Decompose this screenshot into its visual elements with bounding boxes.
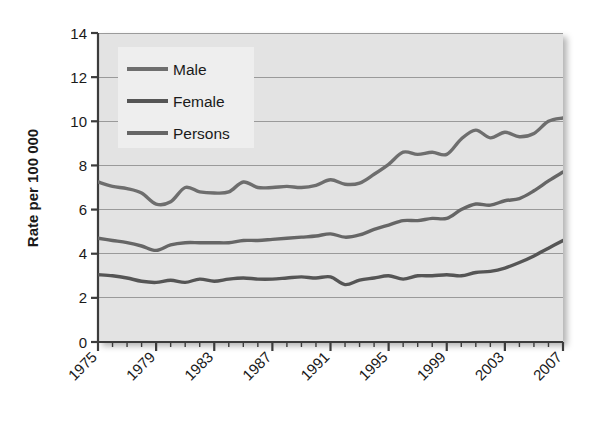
legend-label-female: Female	[173, 93, 225, 110]
chart-legend: MaleFemalePersons	[118, 47, 254, 148]
y-tick-label: 0	[79, 334, 87, 351]
y-axis-ticks: 02468101214	[70, 25, 98, 351]
y-tick-label: 2	[79, 289, 87, 306]
y-tick-label: 12	[70, 69, 87, 86]
x-tick-label: 2003	[471, 348, 507, 384]
x-tick-label: 2007	[530, 348, 566, 384]
y-tick-label: 8	[79, 157, 87, 174]
y-axis-title: Rate per 100 000	[24, 129, 41, 247]
x-tick-label: 1999	[413, 348, 449, 384]
legend-label-persons: Persons	[173, 125, 230, 142]
y-tick-label: 6	[79, 201, 87, 218]
x-tick-label: 1995	[355, 348, 391, 384]
line-chart: 02468101214 1975197919831987199119951999…	[0, 0, 603, 443]
y-tick-label: 4	[79, 245, 87, 262]
x-tick-label: 1979	[123, 348, 159, 384]
legend-label-male: Male	[173, 61, 207, 78]
x-tick-label: 1987	[239, 348, 275, 384]
x-axis-ticks: 197519791983198719911995199920032007	[65, 342, 566, 384]
x-tick-label: 1983	[181, 348, 217, 384]
x-tick-label: 1991	[297, 348, 333, 384]
chart-figure: 02468101214 1975197919831987199119951999…	[0, 0, 603, 443]
x-tick-label: 1975	[65, 348, 101, 384]
y-tick-label: 14	[70, 25, 87, 42]
y-tick-label: 10	[70, 113, 87, 130]
